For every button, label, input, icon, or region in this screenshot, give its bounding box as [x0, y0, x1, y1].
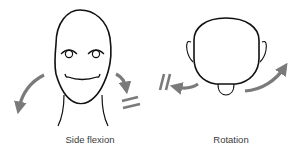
- equals-sign-icon: [122, 97, 140, 108]
- face-outline: [55, 10, 111, 104]
- left-arrow-icon: [176, 84, 198, 88]
- mouth: [65, 74, 100, 80]
- right-curved-arrow-icon: [116, 74, 126, 88]
- left-ear: [187, 41, 193, 62]
- neck-right: [102, 95, 108, 126]
- rotation-figure: [160, 18, 284, 95]
- diagram-canvas: [0, 0, 298, 152]
- right-ear: [260, 41, 266, 62]
- parallel-bars-icon: [160, 74, 170, 90]
- rotation-caption: Rotation: [196, 134, 266, 145]
- side-flexion-figure: [19, 10, 140, 126]
- left-eye-icon: [61, 50, 77, 58]
- neck-left: [58, 95, 64, 126]
- head-outline: [194, 18, 259, 84]
- right-eye-icon: [88, 50, 104, 58]
- left-curved-arrow-icon: [19, 75, 44, 108]
- side-flexion-caption: Side flexion: [50, 134, 130, 145]
- nose: [218, 84, 234, 95]
